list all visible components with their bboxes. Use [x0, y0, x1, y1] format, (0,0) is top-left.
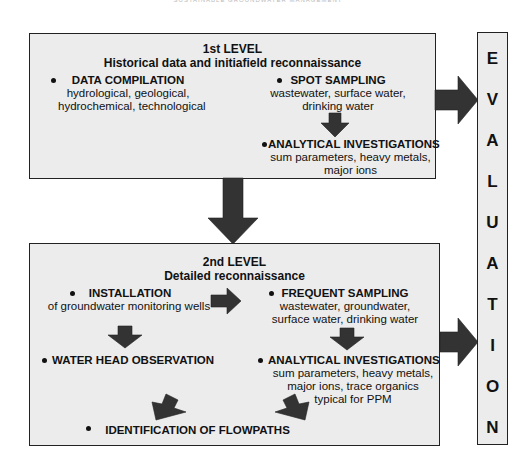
bullet-icon	[262, 142, 267, 147]
arrow-down-icon	[330, 328, 364, 350]
data-compilation-line1: hydrological, geological,	[58, 87, 198, 100]
level1-heading: 1st LEVEL	[30, 42, 435, 56]
arrow-down-icon	[108, 326, 142, 348]
arrow-down-large-icon	[208, 178, 258, 244]
installation-title: INSTALLATION	[60, 287, 200, 300]
evaluation-letter: T	[478, 295, 507, 315]
arrow-right-icon	[211, 288, 241, 314]
analytical-2-line2: major ions, trace organics	[268, 380, 438, 393]
flowpaths-title: IDENTIFICATION OF FLOWPATHS	[105, 424, 290, 437]
data-compilation-line2: hydrochemical, technological	[58, 100, 198, 113]
spot-sampling-title: SPOT SAMPLING	[268, 74, 408, 87]
bullet-icon	[86, 426, 91, 431]
evaluation-letter: O	[478, 377, 507, 397]
evaluation-letter: L	[478, 172, 507, 192]
evaluation-letter: E	[478, 49, 507, 69]
spot-sampling-line1: wastewater, surface water,	[268, 87, 408, 100]
evaluation-letter: I	[478, 336, 507, 356]
arrow-right-evaluation-icon	[440, 318, 478, 366]
arrow-down-right-icon	[152, 394, 186, 420]
arrow-down-left-icon	[275, 394, 309, 420]
analytical-2-title: ANALYTICAL INVESTIGATIONS	[268, 354, 438, 367]
frequent-sampling-title: FREQUENT SAMPLING	[270, 287, 420, 300]
arrow-right-evaluation-icon	[435, 76, 478, 124]
evaluation-letter: U	[478, 213, 507, 233]
water-head-title: WATER HEAD OBSERVATION	[52, 354, 214, 367]
analytical-1-line1: sum parameters, heavy metals,	[268, 151, 433, 164]
level2-heading: 2nd LEVEL	[30, 255, 439, 269]
evaluation-letter: A	[478, 131, 507, 151]
level1-subheading: Historical data and initiafield reconnai…	[30, 56, 435, 70]
arrow-down-icon	[321, 113, 349, 137]
evaluation-letter: N	[478, 418, 507, 438]
analytical-1-title: ANALYTICAL INVESTIGATIONS	[268, 138, 433, 151]
bullet-icon	[51, 78, 56, 83]
frequent-sampling-line1: wastewater, groundwater,	[270, 300, 420, 313]
level1-box: 1st LEVEL Historical data and initiafiel…	[29, 33, 436, 179]
installation-line1: of groundwater monitoring wells	[44, 300, 214, 313]
frequent-sampling-line2: surface water, drinking water	[270, 313, 420, 326]
level2-box: 2nd LEVEL Detailed reconnaissance INSTAL…	[29, 243, 440, 446]
evaluation-letter: A	[478, 254, 507, 274]
analytical-2-line1: sum parameters, heavy metals,	[268, 367, 438, 380]
bullet-icon	[42, 358, 47, 363]
data-compilation-title: DATA COMPILATION	[58, 74, 198, 87]
evaluation-letter: V	[478, 90, 507, 110]
level2-subheading: Detailed reconnaissance	[30, 269, 439, 283]
bullet-icon	[258, 358, 263, 363]
running-header: SUSTAINABLE GROUNDWATER MANAGEMENT	[128, 0, 388, 3]
spot-sampling-line2: drinking water	[268, 100, 408, 113]
analytical-1-line2: major ions	[268, 164, 433, 177]
evaluation-column: E V A L U A T I O N	[477, 32, 508, 445]
